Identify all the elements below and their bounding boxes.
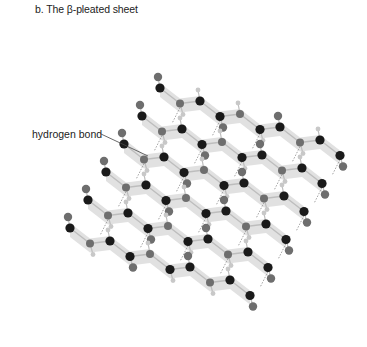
nitrogen-atom (140, 156, 148, 164)
nitrogen-atom (104, 212, 112, 220)
side-atom (171, 278, 176, 283)
carbon-atom (221, 206, 230, 215)
carbon-atom (215, 112, 224, 121)
side-atom (200, 157, 205, 162)
nitrogen-atom (122, 184, 130, 192)
carbon-atom (195, 96, 204, 105)
side-atom (226, 267, 231, 272)
carbon-atom (317, 179, 326, 188)
side-atom (160, 144, 165, 149)
carbon-atom (165, 265, 174, 274)
nitrogen-atom (260, 195, 268, 203)
side-atom (142, 172, 147, 177)
side-atom (124, 200, 129, 205)
side-atom (316, 127, 321, 132)
side-atom (202, 224, 210, 232)
nitrogen-atom (176, 100, 184, 108)
carbon-atom (201, 209, 210, 218)
carbon-atom (243, 247, 252, 256)
carbon-atom (143, 224, 152, 233)
side-atom (218, 129, 223, 134)
nitrogen-atom (86, 240, 94, 248)
nitrogen-atom (242, 223, 250, 231)
carbon-atom (239, 178, 248, 187)
nitrogen-atom (158, 128, 166, 136)
side-atom (164, 213, 169, 218)
side-atom (129, 263, 137, 271)
side-atom (182, 185, 187, 190)
carbon-atom (123, 208, 132, 217)
nitrogen-atom (182, 194, 190, 202)
side-atom (64, 213, 72, 221)
carbon-atom (245, 291, 254, 300)
nitrogen-atom (206, 279, 214, 287)
carbon-atom (177, 124, 186, 133)
carbon-atom (275, 122, 284, 131)
side-atom (238, 168, 246, 176)
carbon-atom (257, 150, 266, 159)
carbon-atom (105, 236, 114, 245)
carbon-atom (197, 140, 206, 149)
side-atom (256, 140, 264, 148)
carbon-atom (141, 180, 150, 189)
carbon-atom (281, 235, 290, 244)
side-atom (118, 129, 126, 137)
side-atom (280, 183, 285, 188)
side-atom (244, 239, 249, 244)
side-atom (146, 241, 151, 246)
carbon-atom (83, 195, 92, 204)
carbon-atom (179, 168, 188, 177)
carbon-atom (159, 152, 168, 161)
side-atom (184, 252, 192, 260)
carbon-atom (315, 135, 324, 144)
carbon-atom (125, 252, 134, 261)
side-atom (196, 88, 201, 93)
side-atom (285, 246, 293, 254)
side-atom (321, 190, 329, 198)
carbon-atom (263, 263, 272, 272)
nitrogen-atom (164, 222, 172, 230)
side-atom (262, 211, 267, 216)
carbon-atom (137, 111, 146, 120)
nitrogen-atom (146, 250, 154, 258)
nitrogen-atom (296, 139, 304, 147)
carbon-atom (155, 83, 164, 92)
nitrogen-atom (236, 110, 244, 118)
carbon-atom (225, 275, 234, 284)
nitrogen-atom (200, 166, 208, 174)
side-atom (100, 157, 108, 165)
carbon-atom (119, 139, 128, 148)
nitrogen-atom (278, 167, 286, 175)
side-atom (91, 252, 96, 257)
side-atom (274, 112, 282, 120)
carbon-atom (299, 207, 308, 216)
side-atom (136, 101, 144, 109)
carbon-atom (183, 237, 192, 246)
strands-group (64, 73, 347, 311)
side-atom (220, 196, 228, 204)
beta-sheet-diagram (0, 0, 367, 347)
side-atom (154, 73, 162, 81)
side-atom (303, 218, 311, 226)
nitrogen-atom (218, 138, 226, 146)
carbon-atom (203, 234, 212, 243)
carbon-atom (255, 125, 264, 134)
side-atom (339, 162, 347, 170)
carbon-atom (237, 153, 246, 162)
side-atom (82, 185, 90, 193)
side-atom (236, 101, 241, 106)
carbon-atom (279, 191, 288, 200)
carbon-atom (101, 167, 110, 176)
nitrogen-atom (224, 251, 232, 259)
carbon-atom (335, 151, 344, 160)
side-atom (267, 274, 275, 282)
side-atom (211, 291, 216, 296)
carbon-atom (185, 262, 194, 271)
side-atom (249, 302, 257, 310)
carbon-atom (65, 223, 74, 232)
side-atom (106, 228, 111, 233)
carbon-atom (219, 181, 228, 190)
carbon-atom (161, 196, 170, 205)
carbon-atom (297, 163, 306, 172)
side-atom (298, 155, 303, 160)
